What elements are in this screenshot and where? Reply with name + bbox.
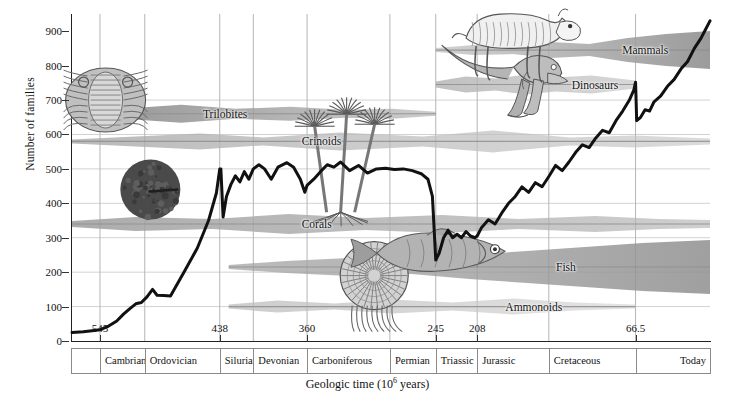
x-tick-mark [636,335,637,342]
x-axis-title-main: Geologic time (10 [306,377,393,391]
band-label-ammonoids: Ammonoids [505,301,562,313]
y-tick-0: 0 [28,335,62,347]
period-cell-cretaceous: Cretaceous [549,349,636,373]
illustration-coral-colony [120,160,180,221]
y-tick-mark [62,307,69,308]
period-cell-triassic: Triassic [436,349,477,373]
x-tick-mark [477,335,478,342]
band-label-fish: Fish [556,261,576,273]
period-cell-cambrian: Cambrian [100,349,145,373]
y-tick-300: 300 [28,232,62,244]
x-tick-208: 208 [469,322,486,334]
geologic-period-bar: CambrianOrdovicianSilurianDevonianCarbon… [71,348,711,374]
period-cell-ordovician: Ordovician [145,349,220,373]
x-tick-mark [307,335,308,342]
y-tick-mark [62,100,69,101]
y-tick-mark [62,66,69,67]
y-tick-mark [62,134,69,135]
geologic-diversity-chart: Number of families 010020030040050060070… [0,0,735,394]
band-label-trilobites: Trilobites [203,108,247,120]
plot-area: TrilobitesCrinoidsCoralsAmmonoidsFishDin… [72,14,710,341]
band-crinoids [72,130,710,152]
y-tick-100: 100 [28,301,62,313]
period-cell-today: Today [636,349,710,373]
y-tick-400: 400 [28,197,62,209]
band-label-mammals: Mammals [622,44,668,56]
x-tick-66.5: 66.5 [626,322,645,334]
band-ammonoids [229,299,636,315]
y-tick-mark [62,341,69,342]
y-tick-600: 600 [28,128,62,140]
band-label-corals: Corals [302,218,332,230]
x-tick-545: 545 [92,322,109,334]
x-axis-line [71,341,711,342]
y-tick-500: 500 [28,163,62,175]
period-cell-permian: Permian [390,349,436,373]
y-axis-tick-labels: 0100200300400500600700800900 [28,0,62,394]
x-axis-title: Geologic time (106 years) [0,376,735,392]
y-tick-200: 200 [28,266,62,278]
y-tick-mark [62,272,69,273]
y-tick-mark [62,238,69,239]
x-tick-mark [100,335,101,342]
y-tick-mark [62,169,69,170]
band-label-crinoids: Crinoids [302,135,342,147]
band-label-dinosaurs: Dinosaurs [572,79,619,91]
illustration-trilobite [64,68,148,132]
y-tick-mark [62,203,69,204]
plot-svg [72,14,710,341]
y-tick-900: 900 [28,25,62,37]
period-cell-jurassic: Jurassic [477,349,549,373]
period-cell-precambrian [72,349,100,373]
x-tick-mark [436,335,437,342]
y-tick-mark [62,31,69,32]
x-axis-title-tail: years) [397,377,429,391]
x-tick-245: 245 [428,322,445,334]
x-tick-mark [220,335,221,342]
x-tick-438: 438 [211,322,228,334]
band-corals [72,214,710,234]
y-tick-800: 800 [28,60,62,72]
y-tick-700: 700 [28,94,62,106]
period-cell-silurian: Silurian [220,349,254,373]
period-cell-carboniferous: Carboniferous [307,349,390,373]
x-tick-360: 360 [299,322,316,334]
period-cell-devonian: Devonian [253,349,307,373]
